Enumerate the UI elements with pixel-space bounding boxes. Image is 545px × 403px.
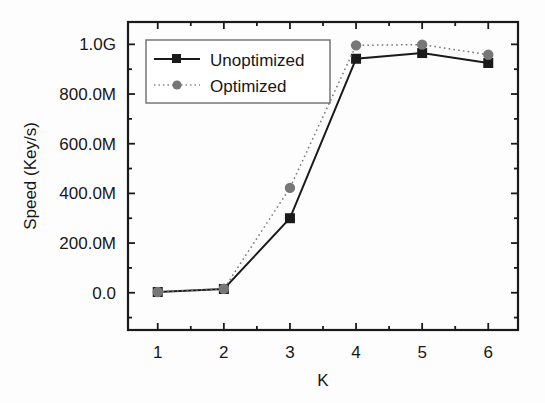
data-point-marker: [219, 284, 229, 294]
data-point-marker: [285, 213, 295, 223]
y-tick-label: 800.0M: [59, 85, 116, 104]
y-tick-label: 600.0M: [59, 135, 116, 154]
chart-legend: Unoptimized Optimized: [146, 40, 330, 103]
y-tick-label: 0.0: [92, 284, 116, 303]
legend-marker-circle-icon: [172, 80, 181, 89]
x-tick-label: 2: [219, 343, 228, 362]
chart-figure: 0.0200.0M400.0M600.0M800.0M1.0G 123456 S…: [0, 0, 545, 403]
speed-vs-k-line-chart: 0.0200.0M400.0M600.0M800.0M1.0G 123456 S…: [0, 0, 545, 403]
x-tick-label: 5: [417, 343, 426, 362]
data-point-marker: [417, 39, 427, 49]
y-tick-labels: 0.0200.0M400.0M600.0M800.0M1.0G: [59, 35, 116, 302]
data-point-marker: [351, 54, 361, 64]
legend-marker-square-icon: [172, 54, 181, 63]
x-tick-label: 3: [285, 343, 294, 362]
x-tick-label: 6: [484, 343, 493, 362]
y-tick-label: 200.0M: [59, 234, 116, 253]
x-tick-labels: 123456: [153, 343, 493, 362]
x-tick-label: 1: [153, 343, 162, 362]
y-tick-label: 1.0G: [79, 35, 116, 54]
legend-label-unoptimized: Unoptimized: [210, 51, 305, 70]
data-point-marker: [153, 287, 163, 297]
x-tick-label: 4: [351, 343, 360, 362]
data-point-marker: [285, 183, 295, 193]
y-axis-title: Speed (Key/s): [21, 122, 40, 230]
data-point-marker: [351, 40, 361, 50]
legend-label-optimized: Optimized: [210, 77, 287, 96]
data-point-marker: [483, 50, 493, 60]
y-tick-label: 400.0M: [59, 184, 116, 203]
x-axis-title: K: [317, 371, 329, 390]
